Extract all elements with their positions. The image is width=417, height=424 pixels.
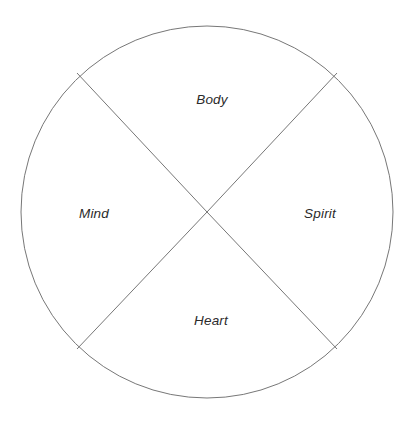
quadrant-label-spirit: Spirit: [304, 206, 336, 222]
diagram-canvas: [0, 0, 417, 424]
quadrant-label-mind: Mind: [79, 206, 109, 222]
divider-line-bottom-left: [77, 212, 207, 349]
quadrant-label-body: Body: [196, 92, 228, 108]
quadrant-label-heart: Heart: [194, 313, 228, 329]
quadrant-circle-diagram: Body Mind Spirit Heart: [0, 0, 417, 424]
divider-line-top-left: [77, 73, 207, 212]
